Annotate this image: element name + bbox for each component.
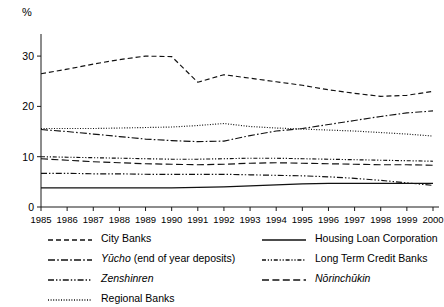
- y-tick-label: 30: [22, 50, 34, 62]
- legend-line-sample-zenshinren: [48, 272, 92, 284]
- legend-line-sample-housing-loan-corporation: [262, 232, 306, 244]
- legend-item-zenshinren: Zenshinren: [48, 268, 262, 288]
- x-tick-label: 1996: [318, 214, 339, 225]
- series-line-yucho: [41, 111, 433, 142]
- legend-item-regional-banks: Regional Banks: [48, 288, 262, 307]
- legend-label-housing-loan-corporation: Housing Loan Corporation: [315, 232, 438, 244]
- legend-item-housing-loan-corporation: Housing Loan Corporation: [262, 228, 444, 248]
- legend-label-yucho: Yūcho (end of year deposits): [101, 252, 235, 264]
- x-tick-label: 1990: [161, 214, 182, 225]
- x-tick-label: 1988: [109, 214, 130, 225]
- legend-item-norinchukin: Nōrinchūkin: [262, 268, 444, 288]
- y-tick-label: 0: [28, 201, 34, 213]
- y-tick-label: 10: [22, 151, 34, 163]
- legend-column-right: Housing Loan CorporationLong Term Credit…: [262, 228, 444, 288]
- chart-legend: City BanksYūcho (end of year deposits)Ze…: [0, 228, 444, 307]
- legend-label-city-banks: City Banks: [101, 232, 151, 244]
- legend-line-sample-city-banks: [48, 232, 92, 244]
- series-line-city-banks: [41, 56, 433, 96]
- legend-label-regional-banks: Regional Banks: [101, 292, 175, 304]
- axes-group: [37, 34, 439, 211]
- x-tick-label: 1987: [83, 214, 104, 225]
- legend-label-norinchukin: Nōrinchūkin: [315, 272, 370, 284]
- y-tick-label: 20: [22, 100, 34, 112]
- legend-item-city-banks: City Banks: [48, 228, 262, 248]
- legend-column-left: City BanksYūcho (end of year deposits)Ze…: [48, 228, 262, 307]
- chart-page: % 01020301985198619871988198919901991199…: [0, 0, 444, 307]
- legend-line-sample-regional-banks: [48, 292, 92, 304]
- legend-line-sample-long-term-credit-banks: [262, 252, 306, 264]
- x-tick-label: 1989: [135, 214, 156, 225]
- x-tick-label: 2000: [422, 214, 443, 225]
- legend-label-long-term-credit-banks: Long Term Credit Banks: [315, 252, 427, 264]
- x-tick-label: 1991: [187, 214, 208, 225]
- legend-item-long-term-credit-banks: Long Term Credit Banks: [262, 248, 444, 268]
- series-line-long-term-credit-banks: [41, 157, 433, 162]
- x-tick-label: 1986: [57, 214, 78, 225]
- x-tick-label: 1994: [266, 214, 287, 225]
- series-group: [41, 56, 433, 188]
- x-tick-label: 1997: [344, 214, 365, 225]
- x-tick-label: 1998: [370, 214, 391, 225]
- legend-line-sample-norinchukin: [262, 272, 306, 284]
- legend-line-sample-yucho: [48, 252, 92, 264]
- x-tick-label: 1992: [213, 214, 234, 225]
- tick-labels-group: 0102030198519861987198819891990199119921…: [22, 50, 443, 225]
- x-tick-label: 1985: [30, 214, 51, 225]
- x-tick-label: 1993: [239, 214, 260, 225]
- x-tick-label: 1999: [396, 214, 417, 225]
- legend-item-yucho: Yūcho (end of year deposits): [48, 248, 262, 268]
- series-line-housing-loan-corporation: [41, 183, 433, 188]
- x-tick-label: 1995: [292, 214, 313, 225]
- legend-label-zenshinren: Zenshinren: [101, 272, 154, 284]
